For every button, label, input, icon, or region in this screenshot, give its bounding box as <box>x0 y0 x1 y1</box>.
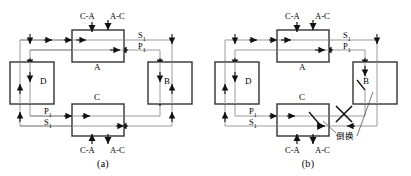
node-box-d <box>215 62 259 104</box>
node-label-c: C <box>299 93 305 102</box>
label-trib-top-in-a: C-A <box>80 12 95 21</box>
label-trib-top-in-b: C-A <box>285 12 300 21</box>
label-trib-top-out-a: A-C <box>110 12 125 21</box>
label-protection-top-b: P1 <box>343 42 351 53</box>
label-trib-bottom-out-b: A-C <box>315 146 330 155</box>
label-protection-top-a: P1 <box>138 42 146 53</box>
label-service-bottom-a: S1 <box>44 118 52 129</box>
node-box-a <box>277 30 329 62</box>
figure-root: C-A A-C C-A A-C A B C D S1 P1 P1 S1 (a) <box>0 0 411 176</box>
node-label-b: B <box>363 77 369 86</box>
panel-caption-a: (a) <box>0 158 206 169</box>
switchover-annotation-label: 倒换 <box>336 132 354 141</box>
label-trib-bottom-in-a: C-A <box>80 146 95 155</box>
label-trib-bottom-out-a: A-C <box>110 146 125 155</box>
panel-caption-b: (b) <box>205 158 411 169</box>
node-boxes-b <box>215 30 397 136</box>
node-label-c: C <box>94 93 100 102</box>
figure-panel-b: C-A A-C C-A A-C A B C D S1 P1 P1 S1 倒换 (… <box>205 0 411 176</box>
figure-panel-a: C-A A-C C-A A-C A B C D S1 P1 P1 S1 (a) <box>0 0 206 176</box>
node-label-d: D <box>40 77 47 86</box>
node-box-d <box>10 62 54 104</box>
node-box-a <box>72 30 124 62</box>
node-box-c <box>72 104 124 136</box>
node-label-a: A <box>94 63 101 72</box>
node-box-c <box>277 104 329 136</box>
ring-diagram-b <box>205 0 411 176</box>
ring-diagram-a <box>0 0 206 176</box>
fault-x-icon <box>336 106 352 122</box>
node-label-d: D <box>245 77 252 86</box>
label-trib-top-out-b: A-C <box>315 12 330 21</box>
node-label-b: B <box>164 77 170 86</box>
label-service-bottom-b: S1 <box>249 118 257 129</box>
label-trib-bottom-in-b: C-A <box>285 146 300 155</box>
node-label-a: A <box>299 63 306 72</box>
